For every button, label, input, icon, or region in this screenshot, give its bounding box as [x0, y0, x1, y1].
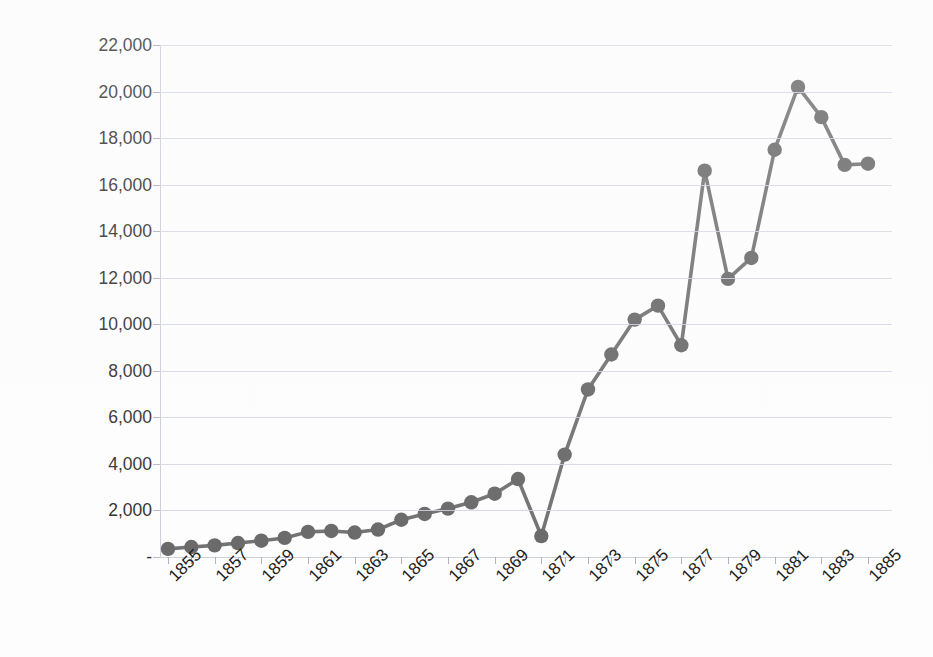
y-axis-tick-labels: -2,0004,0006,0008,00010,00012,00014,0001… [20, 0, 152, 657]
data-point-marker [277, 531, 291, 545]
y-axis-tick-mark [153, 557, 160, 558]
data-point-marker [324, 524, 338, 538]
gridline [160, 324, 892, 325]
y-axis-tick-mark [153, 371, 160, 372]
data-point-marker [697, 163, 711, 177]
x-axis-tick-mark [868, 557, 869, 564]
chart-figure: Quantity consumed (g) -2,0004,0006,0008,… [0, 0, 933, 657]
y-axis-tick-label: 18,000 [20, 128, 152, 149]
x-axis-tick-mark [821, 557, 822, 564]
data-point-marker [301, 525, 315, 539]
y-axis-tick-mark [153, 324, 160, 325]
x-axis-tick-mark [635, 557, 636, 564]
y-axis-tick-label: 6,000 [20, 407, 152, 428]
y-axis-tick-label: 8,000 [20, 360, 152, 381]
x-axis-tick-mark [215, 557, 216, 564]
plot-area [160, 45, 892, 557]
gridline [160, 231, 892, 232]
x-axis-tick-mark [355, 557, 356, 564]
x-axis-tick-mark [261, 557, 262, 564]
y-axis-tick-mark [153, 278, 160, 279]
data-point-marker [511, 472, 525, 486]
data-point-marker [371, 522, 385, 536]
series-line-quantity-consumed [160, 45, 892, 557]
y-axis-tick-mark [153, 138, 160, 139]
data-point-marker [557, 447, 571, 461]
y-axis-tick-label: 10,000 [20, 314, 152, 335]
y-axis-tick-label: 16,000 [20, 174, 152, 195]
y-axis-tick-label: - [20, 547, 152, 568]
data-point-marker [581, 382, 595, 396]
y-axis-tick-mark [153, 417, 160, 418]
gridline [160, 510, 892, 511]
data-point-marker [767, 143, 781, 157]
x-axis-tick-mark [401, 557, 402, 564]
y-axis-tick-label: 22,000 [20, 35, 152, 56]
x-axis-tick-mark [448, 557, 449, 564]
y-axis-tick-mark [153, 464, 160, 465]
data-point-marker [674, 338, 688, 352]
y-axis-tick-label: 4,000 [20, 453, 152, 474]
gridline [160, 417, 892, 418]
data-point-marker [464, 495, 478, 509]
gridline [160, 371, 892, 372]
data-point-marker [814, 110, 828, 124]
data-point-marker [534, 529, 548, 543]
data-point-marker [161, 542, 175, 556]
x-axis-tick-mark [168, 557, 169, 564]
y-axis-tick-label: 12,000 [20, 267, 152, 288]
x-axis-tick-mark [681, 557, 682, 564]
gridline [160, 92, 892, 93]
x-axis-tick-mark [308, 557, 309, 564]
data-point-marker [837, 158, 851, 172]
y-axis-tick-label: 20,000 [20, 81, 152, 102]
x-axis-tick-mark [775, 557, 776, 564]
y-axis-tick-mark [153, 231, 160, 232]
data-point-marker [604, 347, 618, 361]
data-point-marker [347, 525, 361, 539]
data-point-marker [254, 534, 268, 548]
data-point-marker [207, 538, 221, 552]
y-axis-tick-label: 2,000 [20, 500, 152, 521]
data-point-marker [721, 272, 735, 286]
x-axis-tick-mark [541, 557, 542, 564]
y-axis-tick-mark [153, 510, 160, 511]
y-axis-tick-mark [153, 185, 160, 186]
gridline [160, 464, 892, 465]
y-axis-tick-label: 14,000 [20, 221, 152, 242]
y-axis-tick-mark [153, 92, 160, 93]
data-point-marker [651, 298, 665, 312]
data-point-marker [861, 156, 875, 170]
data-point-marker [487, 487, 501, 501]
gridline [160, 138, 892, 139]
data-point-marker [744, 251, 758, 265]
x-axis-tick-mark [495, 557, 496, 564]
data-point-marker [441, 501, 455, 515]
x-axis-tick-mark [728, 557, 729, 564]
y-axis-tick-mark [153, 45, 160, 46]
gridline [160, 278, 892, 279]
data-point-marker [417, 507, 431, 521]
gridline [160, 185, 892, 186]
x-axis-tick-mark [588, 557, 589, 564]
gridline [160, 45, 892, 46]
data-point-marker [394, 513, 408, 527]
